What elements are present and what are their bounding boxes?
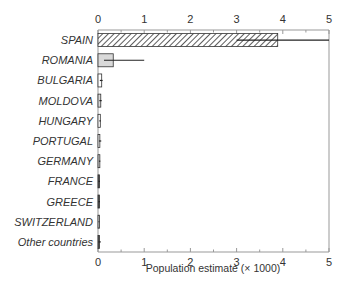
x-axis-label: Population estimate (× 1000) (146, 262, 281, 274)
category-label: HUNGARY (38, 115, 93, 127)
x-tick-label-top: 4 (280, 13, 286, 25)
category-label: PORTUGAL (33, 135, 93, 147)
category-label: BULGARIA (37, 74, 93, 86)
x-tick-label-bottom: 5 (326, 256, 332, 268)
bar-chart: 001122334455 SPAINROMANIABULGARIAMOLDOVA… (0, 0, 350, 286)
category-label: Other countries (18, 236, 94, 248)
bars (98, 34, 329, 249)
category-label: SWITZERLAND (14, 216, 93, 228)
category-label: GREECE (47, 196, 94, 208)
category-label: SPAIN (61, 34, 93, 46)
x-tick-label-top: 5 (326, 13, 332, 25)
x-tick-label-top: 0 (95, 13, 101, 25)
category-label: FRANCE (48, 175, 94, 187)
category-label: GERMANY (37, 155, 93, 167)
x-tick-label-top: 1 (141, 13, 147, 25)
x-tick-label-bottom: 0 (95, 256, 101, 268)
x-tick-label-top: 2 (187, 13, 193, 25)
axes: 001122334455 (95, 13, 332, 268)
x-tick-label-top: 3 (234, 13, 240, 25)
x-tick-label-bottom: 4 (280, 256, 286, 268)
category-label: MOLDOVA (39, 95, 93, 107)
category-label: ROMANIA (42, 54, 93, 66)
category-labels: SPAINROMANIABULGARIAMOLDOVAHUNGARYPORTUG… (14, 34, 93, 248)
